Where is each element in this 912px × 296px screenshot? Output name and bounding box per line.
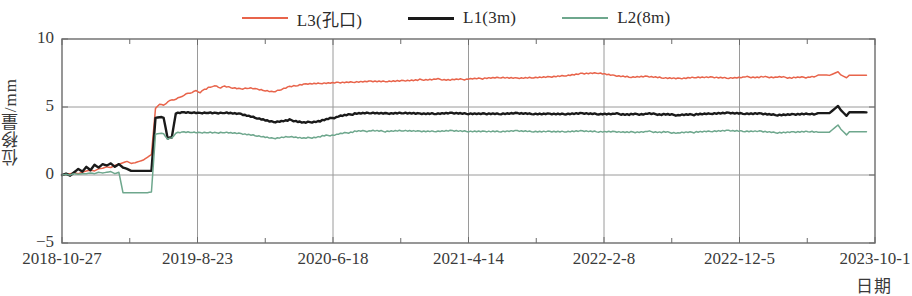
series-line-l1 <box>62 106 866 176</box>
gridlines <box>62 39 875 243</box>
displacement-line-chart: L3(孔口) L1(3m) L2(8m) 位移量/mm 日期 1050−5 20… <box>0 0 912 296</box>
plot-area <box>0 0 912 296</box>
series-line-l3 <box>62 72 866 175</box>
series-line-l2 <box>62 125 866 193</box>
